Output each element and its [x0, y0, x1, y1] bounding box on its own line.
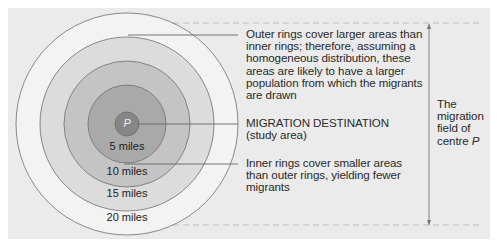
field-label-line: centre P — [437, 135, 492, 147]
ring-label-15: 15 miles — [97, 187, 157, 199]
field-label-p: P — [472, 134, 480, 147]
ring-label-10: 10 miles — [97, 165, 157, 177]
inner-rings-annotation: Inner rings cover smaller areas than out… — [246, 157, 424, 194]
destination-subtitle: (study area) — [246, 129, 426, 141]
migration-field-label: The migration field of centre P — [437, 98, 492, 147]
ring-label-5: 5 miles — [97, 140, 157, 152]
outer-rings-annotation: Outer rings cover larger areas than inne… — [246, 28, 424, 101]
destination-annotation: MIGRATION DESTINATION (study area) — [246, 117, 426, 141]
ring-label-20: 20 miles — [97, 211, 157, 223]
arrow-up-icon — [427, 23, 431, 29]
centre-p-label: P — [121, 117, 133, 129]
field-label-centre: centre — [437, 134, 469, 147]
